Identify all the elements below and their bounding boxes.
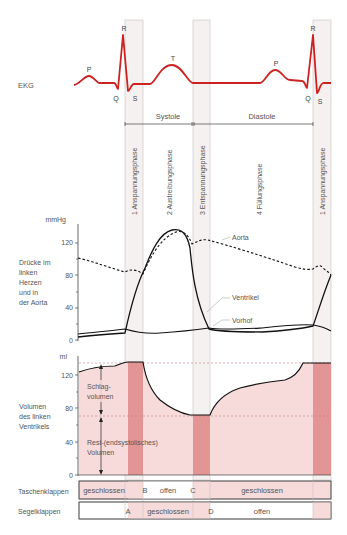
pressure-tick-80: 80 bbox=[65, 272, 73, 279]
taschenklappen-state-3: geschlossen bbox=[241, 486, 283, 495]
ekg-s-wave-2: S bbox=[318, 98, 323, 105]
svg-text:linken: linken bbox=[19, 269, 37, 276]
ekg-label: EKG bbox=[18, 81, 34, 90]
pressure-tick-120: 120 bbox=[61, 239, 73, 246]
phase-labels: 1 Anspannungsphase 2 Austreibungsphase 3… bbox=[131, 145, 327, 215]
segelklappen-state-2: offen bbox=[254, 507, 271, 516]
svg-text:Herzen: Herzen bbox=[19, 279, 42, 286]
ekg-t-wave: T bbox=[171, 55, 176, 62]
ekg-r-wave-2: R bbox=[310, 25, 315, 32]
pressure-tick-40: 40 bbox=[65, 304, 73, 311]
pressure-title: Drücke im linken Herzen und in der Aorta bbox=[19, 259, 51, 306]
vorhof-label: Vorhof bbox=[232, 317, 252, 324]
residual-volume-label-1: Rest-(endsystolisches) bbox=[87, 439, 158, 447]
residual-volume-label-2: Volumen bbox=[87, 449, 114, 456]
svg-text:Ventrikels: Ventrikels bbox=[19, 423, 50, 430]
phase-2-label: 2 Austreibungsphase bbox=[166, 150, 174, 215]
svg-text:Drücke im: Drücke im bbox=[19, 259, 51, 266]
diastole-label: Diastole bbox=[248, 112, 275, 121]
ekg-q-wave: Q bbox=[113, 95, 119, 103]
taschenklappen-label: Taschenklappen bbox=[18, 488, 69, 496]
ekg-p-wave: P bbox=[87, 66, 92, 73]
isovolumetric-contraction-band bbox=[313, 363, 331, 475]
svg-text:und in: und in bbox=[19, 289, 38, 296]
systole-volume-band bbox=[128, 362, 143, 475]
volume-tick-120: 120 bbox=[61, 372, 73, 379]
pressure-chart: mmHg 120 80 40 0 Drücke im linken Herzen… bbox=[19, 216, 331, 344]
ekg-section: EKG P Q R S T P Q R S bbox=[18, 25, 331, 105]
ekg-r-wave: R bbox=[121, 25, 126, 32]
volume-chart: ml 120 80 40 0 Volumen des linken Ventri… bbox=[19, 353, 331, 479]
phase-4-label: 4 Füllungsphase bbox=[256, 164, 264, 215]
volume-tick-0: 0 bbox=[69, 472, 73, 479]
segelklappen-marker-a: A bbox=[125, 507, 130, 516]
isovolumetric-relaxation-band bbox=[193, 415, 210, 475]
volume-title: Volumen des linken Ventrikels bbox=[19, 403, 51, 430]
taschenklappen-marker-b: B bbox=[142, 486, 147, 495]
volume-tick-40: 40 bbox=[65, 439, 73, 446]
segelklappen-label: Segelklappen bbox=[18, 508, 61, 516]
stroke-volume-label-2: volumen bbox=[87, 393, 114, 400]
segelklappen-marker-d: D bbox=[208, 507, 214, 516]
phase-1b-label: 1 Anspannungsphase bbox=[319, 148, 327, 215]
cycle-bracket: Systole Diastole bbox=[125, 112, 313, 126]
stroke-volume-label-1: Schlag- bbox=[87, 383, 111, 391]
ekg-s-wave: S bbox=[133, 95, 138, 102]
aorta-label: Aorta bbox=[232, 234, 249, 241]
taschenklappen-marker-c: C bbox=[190, 486, 196, 495]
svg-text:der Aorta: der Aorta bbox=[19, 299, 48, 306]
segelklappen-state-1: geschlossen bbox=[147, 507, 189, 516]
volume-unit: ml bbox=[60, 353, 68, 360]
pressure-unit: mmHg bbox=[45, 216, 66, 224]
svg-text:des linken: des linken bbox=[19, 413, 51, 420]
cardiac-cycle-diagram: EKG P Q R S T P Q R S Systole Diastole 1… bbox=[0, 0, 347, 535]
taschenklappen-state-1: geschlossen bbox=[83, 486, 125, 495]
ventrikel-label: Ventrikel bbox=[232, 294, 259, 301]
phase-3-label: 3 Entspannungsphase bbox=[199, 145, 207, 215]
pressure-tick-0: 0 bbox=[69, 337, 73, 344]
ekg-p-wave-2: P bbox=[274, 60, 279, 67]
taschenklappen-state-2: offen bbox=[160, 486, 177, 495]
volume-tick-80: 80 bbox=[65, 405, 73, 412]
valves-section: Taschenklappen geschlossen B offen C ges… bbox=[18, 481, 331, 519]
ekg-q-wave-2: Q bbox=[305, 95, 311, 103]
systole-label: Systole bbox=[156, 112, 181, 121]
phase-1-label: 1 Anspannungsphase bbox=[131, 148, 139, 215]
svg-text:Volumen: Volumen bbox=[19, 403, 46, 410]
